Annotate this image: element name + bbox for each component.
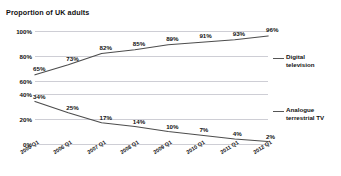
legend-swatch-line (273, 111, 284, 112)
data-point-label: 10% (166, 123, 178, 130)
data-point-label: 34% (33, 93, 45, 100)
data-point-label: 14% (133, 118, 145, 125)
legend-label-line2: television (286, 61, 315, 68)
data-point-label: 93% (233, 30, 245, 37)
legend-label-line1: Analogue (286, 106, 314, 113)
legend-entry-analogue-terrestrial-tv: Analogueterrestrial TV (286, 106, 341, 121)
data-point-label: 2% (266, 133, 275, 140)
chart-figure: Proportion of UK adults 60%80%100%65%73%… (0, 0, 341, 176)
legend-label-line1: Digital (286, 53, 305, 60)
data-point-label: 89% (166, 35, 178, 42)
data-point-label: 91% (199, 32, 211, 39)
y-axis-tick-label: 60% (2, 78, 32, 85)
data-point-label: 25% (66, 104, 78, 111)
data-point-label: 73% (66, 55, 78, 62)
legend-entry-digital-television: Digitaltelevision (286, 53, 341, 68)
y-axis-tick-label: 20% (2, 116, 32, 123)
data-point-label: 65% (33, 65, 45, 72)
y-axis-tick-label: 40% (2, 91, 32, 98)
data-point-label: 85% (133, 40, 145, 47)
legend-swatch-line (273, 58, 284, 59)
data-point-label: 7% (199, 126, 208, 133)
data-point-label: 17% (100, 114, 112, 121)
legend-label-line2: terrestrial TV (286, 114, 324, 121)
data-point-label: 4% (233, 130, 242, 137)
data-point-label: 96% (266, 26, 278, 33)
data-point-label: 82% (100, 44, 112, 51)
y-axis-tick-label: 100% (2, 28, 32, 35)
y-axis-tick-label: 80% (2, 53, 32, 60)
